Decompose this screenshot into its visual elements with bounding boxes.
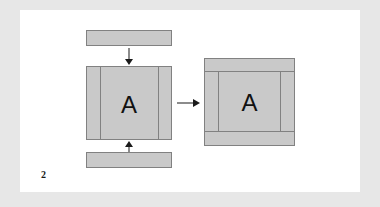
arrow-down-head: [125, 59, 133, 65]
figure-paper: A A 2: [20, 10, 360, 192]
arrow-down-icon: [123, 48, 135, 65]
arrow-right-head: [193, 99, 200, 107]
figure-root: A A 2: [0, 0, 380, 207]
center-panel-letter: A: [87, 93, 171, 117]
top-rail-part: [86, 30, 172, 46]
right-panel-part: A: [204, 58, 295, 146]
arrow-right-shaft: [177, 103, 194, 104]
right-panel-letter: A: [205, 91, 294, 115]
arrow-up-head: [125, 141, 133, 147]
bottom-rail-part: [86, 152, 172, 168]
center-panel-part: A: [86, 66, 172, 140]
arrow-right-icon: [177, 97, 200, 109]
figure-number-label: 2: [41, 169, 46, 180]
